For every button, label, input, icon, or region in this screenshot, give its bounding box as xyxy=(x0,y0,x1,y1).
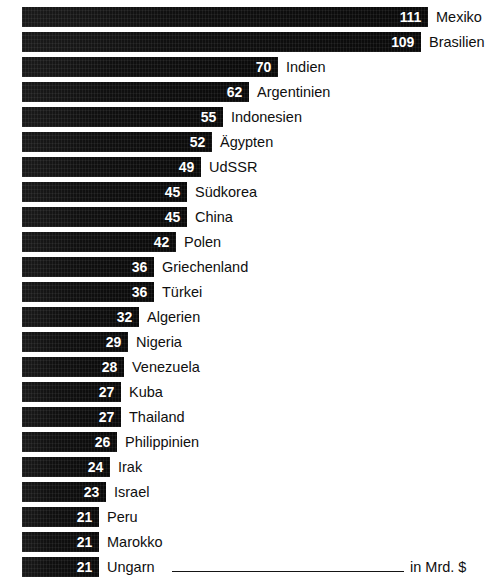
bar-row: 29Nigeria xyxy=(0,332,496,357)
bar-category-label: UdSSR xyxy=(209,159,257,176)
bar-row: 109Brasilien xyxy=(0,32,496,57)
bar-row: 45China xyxy=(0,207,496,232)
axis-rule xyxy=(172,571,404,572)
bar-category-label: Nigeria xyxy=(136,334,182,351)
bar-category-label: Algerien xyxy=(147,309,200,326)
bar-category-label: Indien xyxy=(286,59,326,76)
bar-value-label: 55 xyxy=(201,110,216,124)
bar-texture xyxy=(22,32,421,52)
bar: 26 xyxy=(22,432,117,452)
bar: 52 xyxy=(22,132,212,152)
bar-row: 21Marokko xyxy=(0,532,496,557)
bar: 45 xyxy=(22,207,187,227)
bar: 24 xyxy=(22,457,110,477)
bar-value-label: 32 xyxy=(117,310,132,324)
bar-category-label: Ägypten xyxy=(220,134,273,151)
bar-row: 32Algerien xyxy=(0,307,496,332)
bar-value-label: 36 xyxy=(132,285,147,299)
bar-row: 70Indien xyxy=(0,57,496,82)
bar-value-label: 23 xyxy=(84,485,99,499)
bar-value-label: 21 xyxy=(77,510,92,524)
bar-row: 24Irak xyxy=(0,457,496,482)
bar-category-label: Griechenland xyxy=(162,259,248,276)
bar-texture xyxy=(22,207,187,227)
bar-category-label: Indonesien xyxy=(231,109,302,126)
bar-row: 111Mexiko xyxy=(0,7,496,32)
bar-value-label: 111 xyxy=(400,10,421,24)
bar-category-label: Venezuela xyxy=(132,359,200,376)
bar-value-label: 52 xyxy=(190,135,205,149)
bar-value-label: 28 xyxy=(102,360,117,374)
bar: 21 xyxy=(22,507,99,527)
bar-category-label: Thailand xyxy=(129,409,185,426)
bar-category-label: Ungarn xyxy=(107,559,155,576)
bar-texture xyxy=(22,57,278,77)
bar: 36 xyxy=(22,282,154,302)
bar-value-label: 70 xyxy=(256,60,271,74)
bar-texture xyxy=(22,82,249,102)
bar: 27 xyxy=(22,382,121,402)
bar-texture xyxy=(22,182,187,202)
bar-row: 21Peru xyxy=(0,507,496,532)
bar-value-label: 109 xyxy=(391,35,414,49)
bar-category-label: Marokko xyxy=(107,534,163,551)
bar-row: 36Türkei xyxy=(0,282,496,307)
bar-row: 28Venezuela xyxy=(0,357,496,382)
bar: 29 xyxy=(22,332,128,352)
bar-value-label: 27 xyxy=(99,385,114,399)
bar-row: 49UdSSR xyxy=(0,157,496,182)
bar-row: 62Argentinien xyxy=(0,82,496,107)
bar-category-label: Kuba xyxy=(129,384,163,401)
axis-unit-label: in Mrd. $ xyxy=(410,559,466,576)
bar-value-label: 45 xyxy=(165,210,180,224)
bar-category-label: Polen xyxy=(184,234,221,251)
bar: 62 xyxy=(22,82,249,102)
bar-value-label: 49 xyxy=(179,160,194,174)
bar: 36 xyxy=(22,257,154,277)
bar-value-label: 24 xyxy=(88,460,103,474)
bar: 32 xyxy=(22,307,139,327)
bar-value-label: 29 xyxy=(106,335,121,349)
bar: 109 xyxy=(22,32,421,52)
bar-category-label: Philippinien xyxy=(125,434,199,451)
bar: 70 xyxy=(22,57,278,77)
bar-texture xyxy=(22,7,428,27)
bar-value-label: 36 xyxy=(132,260,147,274)
bar-value-label: 27 xyxy=(99,410,114,424)
bar-row: 27Thailand xyxy=(0,407,496,432)
bar-category-label: Südkorea xyxy=(195,184,257,201)
bar-category-label: Brasilien xyxy=(429,34,485,51)
bar-row: 42Polen xyxy=(0,232,496,257)
bar-category-label: Türkei xyxy=(162,284,202,301)
bar-category-label: Peru xyxy=(107,509,138,526)
bar-category-label: Mexiko xyxy=(436,9,482,26)
bar-value-label: 21 xyxy=(77,535,92,549)
bar-value-label: 42 xyxy=(154,235,169,249)
bar: 45 xyxy=(22,182,187,202)
bar-category-label: Israel xyxy=(114,484,149,501)
bar: 42 xyxy=(22,232,176,252)
bar: 55 xyxy=(22,107,223,127)
bar-texture xyxy=(22,132,212,152)
bar: 28 xyxy=(22,357,124,377)
bar: 21 xyxy=(22,557,99,577)
bar: 21 xyxy=(22,532,99,552)
bar-value-label: 26 xyxy=(95,435,110,449)
bar-value-label: 21 xyxy=(77,560,92,574)
bar-row: 45Südkorea xyxy=(0,182,496,207)
bar: 27 xyxy=(22,407,121,427)
bar-row: 23Israel xyxy=(0,482,496,507)
bar: 23 xyxy=(22,482,106,502)
bar-row: 21Ungarnin Mrd. $ xyxy=(0,557,496,581)
bar-texture xyxy=(22,107,223,127)
bar-value-label: 45 xyxy=(165,185,180,199)
bar-category-label: Argentinien xyxy=(257,84,330,101)
bar: 49 xyxy=(22,157,201,177)
bar-row: 55Indonesien xyxy=(0,107,496,132)
bar-category-label: Irak xyxy=(118,459,142,476)
bar-row: 27Kuba xyxy=(0,382,496,407)
bar: 111 xyxy=(22,7,428,27)
bar-row: 26Philippinien xyxy=(0,432,496,457)
bar-category-label: China xyxy=(195,209,233,226)
